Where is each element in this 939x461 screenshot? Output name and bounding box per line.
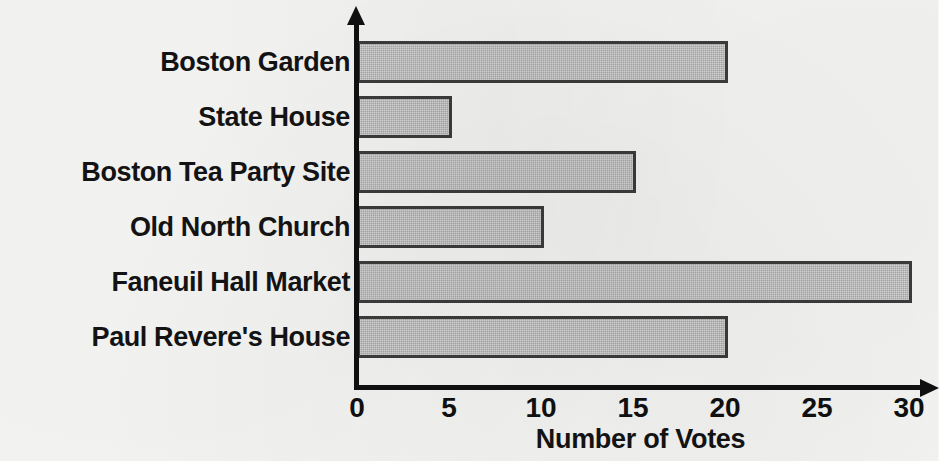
bar-old-north-church xyxy=(357,206,544,248)
x-axis-line xyxy=(354,385,924,390)
bar-state-house xyxy=(357,96,452,138)
x-tick-label-15: 15 xyxy=(603,392,663,424)
x-tick-label-0: 0 xyxy=(327,392,387,424)
x-tick-label-20: 20 xyxy=(695,392,755,424)
category-label-old-north-church: Old North Church xyxy=(130,206,350,248)
category-label-boston-garden: Boston Garden xyxy=(160,41,350,83)
x-tick-label-25: 25 xyxy=(787,392,847,424)
category-label-faneuil-hall-market: Faneuil Hall Market xyxy=(112,261,350,303)
category-label-boston-tea-party-site: Boston Tea Party Site xyxy=(81,151,350,193)
bar-paul-reveres-house xyxy=(357,316,728,358)
bar-boston-tea-party-site xyxy=(357,151,636,193)
x-tick-label-5: 5 xyxy=(419,392,479,424)
bar-boston-garden xyxy=(357,41,728,83)
category-label-paul-reveres-house: Paul Revere's House xyxy=(92,316,350,358)
category-label-state-house: State House xyxy=(198,96,350,138)
x-axis-title: Number of Votes xyxy=(357,424,924,455)
x-tick-label-30: 30 xyxy=(879,392,939,424)
y-axis-line xyxy=(354,22,359,390)
bar-faneuil-hall-market xyxy=(357,261,912,303)
y-axis-arrow-icon xyxy=(347,6,365,25)
x-tick-label-10: 10 xyxy=(511,392,571,424)
